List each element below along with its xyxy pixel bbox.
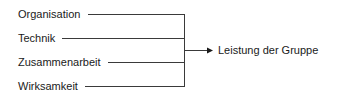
input-label-technik: Technik: [18, 32, 55, 45]
output-label: Leistung der Gruppe: [218, 44, 318, 57]
input-label-organisation: Organisation: [18, 8, 80, 21]
diagram-canvas: Organisation Technik Zusammenarbeit Wirk…: [0, 0, 340, 95]
arrow-head-icon: [207, 48, 213, 54]
input-label-wirksamkeit: Wirksamkeit: [18, 80, 78, 93]
input-label-zusammenarbeit: Zusammenarbeit: [18, 56, 101, 69]
